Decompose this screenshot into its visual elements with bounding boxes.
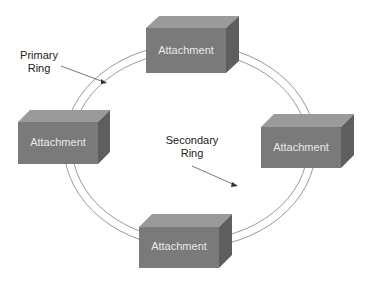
primary-ring-label-line2: Ring <box>14 62 64 75</box>
attachment-label-right: Attachment <box>261 141 341 153</box>
primary-ring-label: Primary Ring <box>14 49 64 75</box>
secondary-ring-label-line1: Secondary <box>157 134 227 147</box>
attachment-label-bottom: Attachment <box>139 240 219 252</box>
secondary-ring-label: Secondary Ring <box>157 134 227 160</box>
attachment-label-left: Attachment <box>18 136 98 148</box>
secondary-ring-label-line2: Ring <box>157 147 227 160</box>
attachment-label-top: Attachment <box>146 44 226 56</box>
secondary-ring-arrow <box>192 166 238 187</box>
primary-ring-label-line1: Primary <box>14 49 64 62</box>
